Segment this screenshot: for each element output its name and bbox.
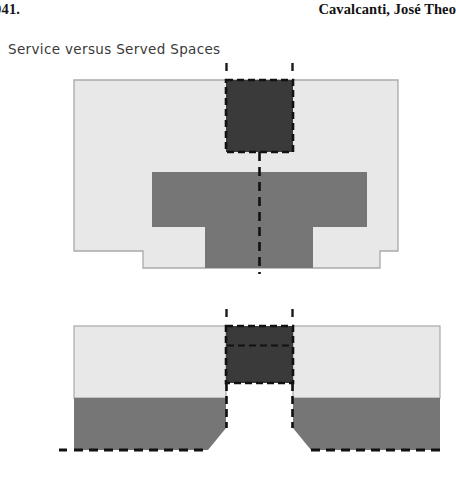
section-view-diagram <box>59 309 440 450</box>
plan-view-diagram <box>74 63 398 274</box>
section-lower-band-right <box>293 398 440 450</box>
section-service-shaft <box>226 326 293 383</box>
section-lower-band-left <box>74 398 226 450</box>
section-upper-band-left <box>74 326 226 398</box>
section-upper-band-right <box>293 326 440 398</box>
plan-service-block <box>226 80 293 152</box>
